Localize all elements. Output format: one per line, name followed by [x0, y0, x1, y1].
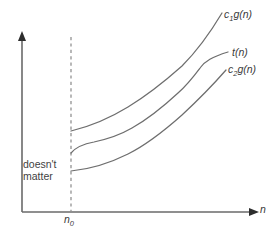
doesnt-matter-annotation: doesn't matter: [23, 158, 57, 183]
curve-label-lower-bound-sub: 2: [233, 69, 237, 78]
curve-label-upper-bound-sub: 1: [229, 14, 233, 23]
curve-label-lower-bound: c2g(n): [228, 63, 256, 76]
curve-lower-bound: [71, 70, 226, 171]
threshold-label-n0: n0: [64, 213, 74, 226]
curve-label-upper-bound-tail: g(n): [233, 8, 252, 20]
x-axis-label: n: [260, 203, 266, 215]
curve-label-actual-runtime: t(n): [232, 46, 248, 58]
curve-upper-bound: [71, 13, 222, 131]
diagram-canvas: [0, 0, 278, 239]
curve-label-lower-bound-tail: g(n): [237, 63, 256, 75]
threshold-label-main: n: [64, 213, 70, 225]
doesnt-matter-line-1: doesn't: [23, 158, 57, 170]
big-theta-diagram: c1g(n) t(n) c2g(n) n n0 doesn't matter: [0, 0, 278, 239]
x-axis-arrowhead: [249, 208, 259, 216]
curve-label-actual-runtime-tail: (n): [235, 46, 248, 58]
doesnt-matter-line-2: matter: [23, 170, 57, 182]
curve-actual-runtime: [71, 52, 228, 153]
curve-label-upper-bound: c1g(n): [224, 8, 252, 21]
threshold-label-sub: 0: [70, 219, 74, 228]
y-axis-arrowhead: [18, 31, 26, 41]
